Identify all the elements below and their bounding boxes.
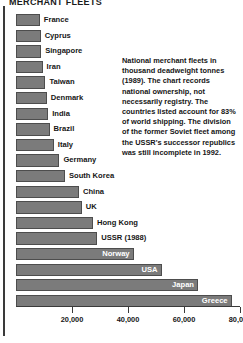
x-axis-tick-label: 20,000 [61,315,84,324]
chart-caption: National merchant fleets in thousand dea… [122,56,238,158]
bar-label: Cyprus [45,31,71,41]
bar [16,170,65,182]
left-border-rule [3,6,5,336]
bar-label: India [52,109,70,119]
page-title: MERCHANT FLEETS [9,0,102,7]
bar-label: Hong Kong [97,218,138,228]
bar [16,279,198,291]
bar [16,30,41,42]
bar [16,139,54,151]
bar-row: USA [16,263,240,279]
bar [16,217,93,229]
bar-label: Taiwan [49,77,74,87]
bar-label: South Korea [69,171,114,181]
bar [16,201,82,213]
bar-label: Germany [63,155,96,165]
bar [16,264,162,276]
bar-row: Norway [16,247,240,263]
x-axis-tick-label: 40,000 [117,315,140,324]
bar [16,123,50,135]
bar [16,61,43,73]
bar [16,45,41,57]
bar-label: Iran [47,62,61,72]
bar-label: Singapore [45,46,82,56]
bar-label: USSR (1988) [101,233,146,243]
chart-page: MERCHANT FLEETS FranceCyprusSingaporeIra… [0,0,243,343]
bar-row: Japan [16,278,240,294]
bar-row: Hong Kong [16,216,240,232]
bar [16,186,79,198]
x-axis-tick [128,307,129,313]
x-axis-tick-label: 80,000 [229,315,243,324]
x-axis-tick [184,307,185,313]
bar-label: Denmark [51,93,84,103]
bar-label: Japan [172,280,194,290]
x-axis-tick [72,307,73,313]
bar-label: China [83,187,104,197]
bar-row: China [16,185,240,201]
bar-label: France [44,15,69,25]
bar [16,154,59,166]
bar-row: South Korea [16,169,240,185]
bar [16,108,48,120]
bar-row: UK [16,200,240,216]
bar [16,92,47,104]
x-axis-tick [240,307,241,313]
bar-label: Italy [58,140,73,150]
bar-label: USA [142,265,158,275]
bar-label: Brazil [54,124,75,134]
bar [16,14,40,26]
bar-row: France [16,13,240,29]
bar-label: Greece [202,296,228,306]
bar [16,76,45,88]
bar-row: Cyprus [16,29,240,45]
bar [16,232,97,244]
bar-label: UK [86,202,97,212]
x-axis-tick-label: 60,000 [173,315,196,324]
bar-row: USSR (1988) [16,231,240,247]
bar-label: Norway [102,249,129,259]
